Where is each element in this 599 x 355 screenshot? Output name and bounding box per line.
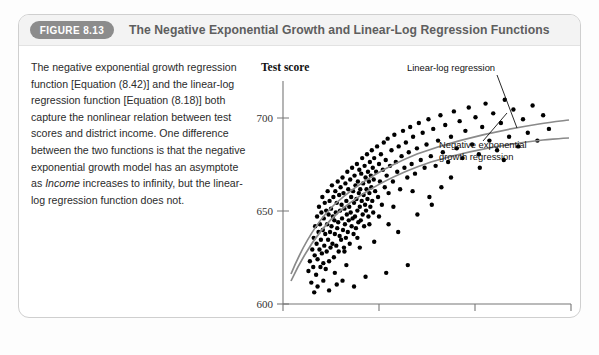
scatter-point (312, 253, 316, 257)
scatter-point (344, 199, 348, 203)
scatter-point (344, 236, 348, 240)
scatter-point (372, 240, 376, 244)
scatter-point (386, 222, 390, 226)
scatter-point (431, 127, 435, 131)
scatter-point (337, 193, 341, 197)
scatter-point (417, 121, 421, 125)
scatter-point (335, 282, 339, 286)
y-tick-label-600: 600 (257, 298, 274, 310)
scatter-point (480, 125, 484, 129)
scatter-point (547, 127, 551, 131)
scatter-point (311, 265, 315, 269)
scatter-point (370, 199, 374, 203)
scatter-point (473, 115, 477, 119)
scatter-point (368, 160, 372, 164)
scatter-point (396, 144, 400, 148)
scatter-point (398, 187, 402, 191)
scatter-point (467, 105, 471, 109)
annotation-linear-log-label: Linear-log regression (407, 62, 495, 73)
scatter-point (321, 261, 325, 265)
scatter-point (317, 205, 321, 209)
scatter-point (349, 224, 353, 228)
annotation-linear-log-leader-line (497, 75, 517, 128)
scatter-point (373, 189, 377, 193)
scatter-point (319, 210, 323, 214)
scatter-point (348, 177, 352, 181)
y-tick-label-650: 650 (257, 205, 274, 217)
scatter-point (511, 107, 515, 111)
scatter-point (308, 259, 312, 263)
figure-panel: FIGURE 8.13 The Negative Exponential Gro… (18, 14, 581, 318)
scatter-point (438, 113, 442, 117)
scatter-point (407, 150, 411, 154)
scatter-point (391, 205, 395, 209)
scatter-point (312, 290, 316, 294)
scatter-point (350, 166, 354, 170)
scatter-point (375, 144, 379, 148)
scatter-point (355, 236, 359, 240)
scatter-point (371, 166, 375, 170)
scatter-point (372, 156, 376, 160)
scatter-point (363, 275, 367, 279)
scatter-point (411, 134, 415, 138)
scatter-point (402, 166, 406, 170)
scatter-point (422, 166, 426, 170)
scatter-point (323, 201, 327, 205)
scatter-point (449, 175, 453, 179)
scatter-point (310, 247, 314, 251)
scatter-point (348, 241, 352, 245)
y-tick-label-700: 700 (257, 112, 274, 124)
scatter-point (399, 154, 403, 158)
scatter-point (406, 263, 410, 267)
scatter-point (370, 148, 374, 152)
scatter-point (362, 224, 366, 228)
scatter-point (410, 189, 414, 193)
scatter-point (420, 131, 424, 135)
scatter-point (345, 170, 349, 174)
scatter-point (342, 245, 346, 249)
scatter-point (337, 234, 341, 238)
scatter-point (330, 183, 334, 187)
scatter-point (377, 214, 381, 218)
scatter-point (408, 125, 412, 129)
scatter-point (333, 271, 337, 275)
figure-page: FIGURE 8.13 The Negative Exponential Gro… (0, 0, 599, 355)
scatter-point (359, 171, 363, 175)
scatter-point (346, 230, 350, 234)
scatter-point (357, 168, 361, 172)
scatter-point (358, 245, 362, 249)
scatter-point (521, 117, 525, 121)
scatter-point (396, 230, 400, 234)
figure-caption: The negative exponential growth regressi… (31, 59, 246, 208)
scatter-point (358, 205, 362, 209)
scatter-point (430, 203, 434, 207)
scatter-point (344, 263, 348, 267)
scatter-point (409, 162, 413, 166)
scatter-point (443, 123, 447, 127)
scatter-point (334, 243, 338, 247)
scatter-point (332, 218, 336, 222)
scatter-point (323, 232, 327, 236)
scatter-point (330, 241, 334, 245)
scatter-point (352, 284, 356, 288)
scatter-point (405, 175, 409, 179)
scatter-point (392, 133, 396, 137)
scatter-point (317, 247, 321, 251)
scatter-point (327, 259, 331, 263)
annotation-neg-exp-leader-line (483, 113, 507, 141)
scatter-point (365, 152, 369, 156)
scatter-plot: Test score 700 650 600 (239, 49, 579, 311)
scatter-point (315, 284, 319, 288)
scatter-point (380, 203, 384, 207)
scatter-point (366, 214, 370, 218)
scatter-point (325, 189, 329, 193)
scatter-point (391, 179, 395, 183)
scatter-point (367, 222, 371, 226)
scatter-point (530, 103, 534, 107)
figure-number-badge: FIGURE 8.13 (30, 21, 114, 39)
scatter-point (343, 181, 347, 185)
scatter-point (318, 265, 322, 269)
scatter-point (415, 146, 419, 150)
annotation-neg-exp-label-line2: growth regression (439, 151, 514, 162)
scatter-point (427, 195, 431, 199)
